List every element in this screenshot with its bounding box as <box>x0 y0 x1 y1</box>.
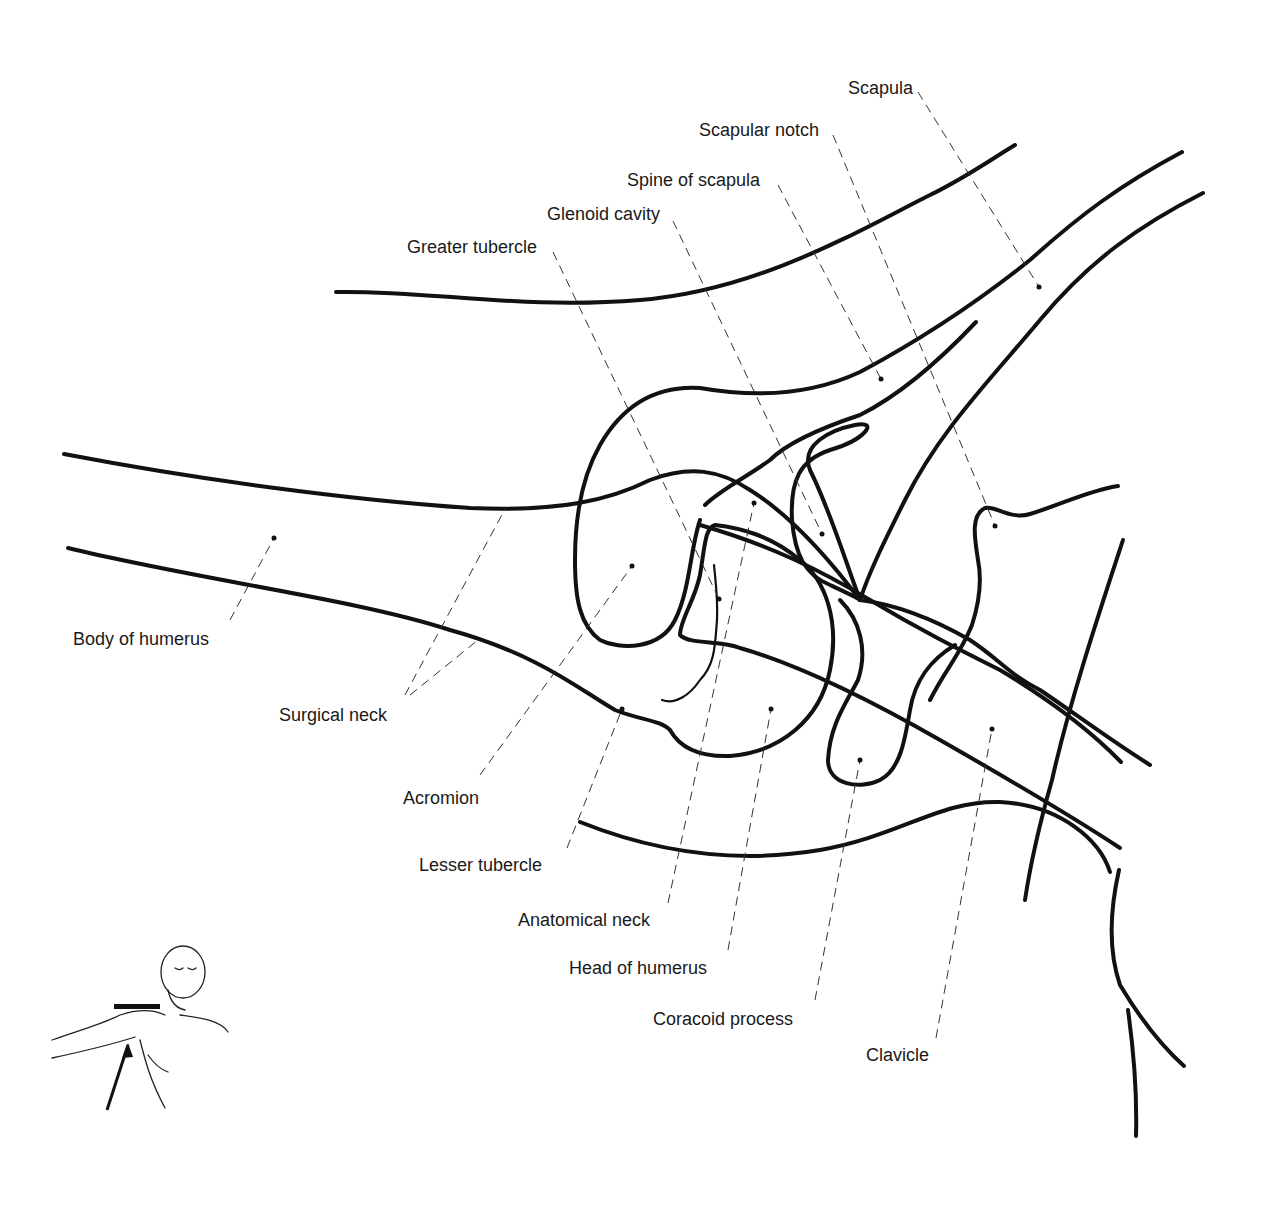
label-acromion: Acromion <box>403 789 479 807</box>
label-surgical-neck: Surgical neck <box>279 706 387 724</box>
label-clavicle: Clavicle <box>866 1046 929 1064</box>
label-head-of-humerus: Head of humerus <box>569 959 707 977</box>
label-spine-of-scapula: Spine of scapula <box>627 171 760 189</box>
label-body-of-humerus: Body of humerus <box>73 630 209 648</box>
label-scapula: Scapula <box>848 79 913 97</box>
patient-positioning-icon <box>52 946 228 1110</box>
label-scapular-notch: Scapular notch <box>699 121 819 139</box>
label-greater-tubercle: Greater tubercle <box>407 238 537 256</box>
label-anchor-dots <box>272 285 1042 763</box>
label-glenoid-cavity: Glenoid cavity <box>547 205 660 223</box>
label-lesser-tubercle: Lesser tubercle <box>419 856 542 874</box>
label-coracoid-process: Coracoid process <box>653 1010 793 1028</box>
leader-lines <box>230 92 1039 1038</box>
label-anatomical-neck: Anatomical neck <box>518 911 650 929</box>
bone-outlines <box>64 145 1203 1136</box>
